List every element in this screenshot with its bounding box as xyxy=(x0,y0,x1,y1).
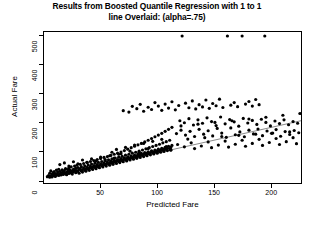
x-axis-tick-label: 50 xyxy=(87,189,113,196)
y-axis-tick-label: 100 xyxy=(31,150,38,176)
chart-title-line-2: line Overlaid: (alpha=.75) xyxy=(0,12,314,23)
x-axis-tick xyxy=(100,184,101,188)
x-axis-tick xyxy=(271,184,272,188)
chart-title: Results from Boosted Quantile Regression… xyxy=(0,1,314,22)
y-axis-tick xyxy=(39,93,43,94)
y-axis-title: Actual Fare xyxy=(10,64,19,130)
x-axis-tick-label: 200 xyxy=(258,189,284,196)
scatter-plot-figure: Results from Boosted Quantile Regression… xyxy=(0,0,314,229)
x-axis-tick-label: 150 xyxy=(201,189,227,196)
y-axis-tick xyxy=(39,122,43,123)
scatter-points-layer xyxy=(44,32,301,183)
chart-title-line-1: Results from Boosted Quantile Regression… xyxy=(53,1,262,11)
y-axis-tick xyxy=(39,151,43,152)
y-axis-tick xyxy=(39,35,43,36)
x-axis-title: Predicted Fare xyxy=(43,200,302,209)
y-axis-tick-label: 500 xyxy=(31,34,38,60)
y-axis-tick xyxy=(39,181,43,182)
plot-area xyxy=(43,31,302,184)
y-axis-tick xyxy=(39,64,43,65)
y-axis-tick-label: 400 xyxy=(31,63,38,89)
x-axis-tick xyxy=(214,184,215,188)
x-axis-tick-label: 100 xyxy=(144,189,170,196)
y-axis-tick-label: 200 xyxy=(31,121,38,147)
y-axis-tick-label: 300 xyxy=(31,92,38,118)
x-axis-tick xyxy=(157,184,158,188)
y-axis-tick-label: 0 xyxy=(31,179,38,205)
